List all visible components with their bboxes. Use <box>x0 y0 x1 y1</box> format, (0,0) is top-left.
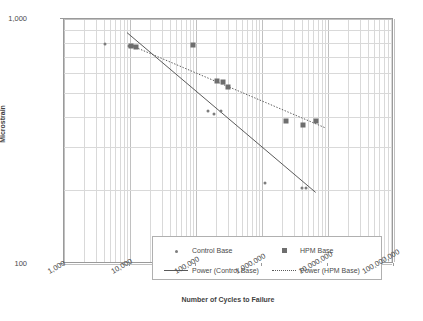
x-axis-tickmark <box>195 263 196 266</box>
gridline-vertical <box>394 19 395 262</box>
y-axis-tick-label: 1,000 <box>0 18 27 27</box>
data-point <box>220 110 223 113</box>
y-axis-tick-label: 100 <box>0 263 27 272</box>
x-axis-tickmark <box>261 263 262 266</box>
data-point <box>301 122 306 127</box>
y-axis-label: Microstrain <box>0 105 6 143</box>
x-axis-tickmark <box>393 263 394 266</box>
legend-item-hpm-base: HPM Base <box>271 247 371 254</box>
data-point <box>191 43 196 48</box>
x-axis-tickmark <box>327 263 328 266</box>
x-axis-label: Number of Cycles to Failure <box>63 296 393 303</box>
data-point <box>206 110 209 113</box>
legend-dotted-line-icon <box>271 267 297 274</box>
data-point <box>300 186 303 189</box>
data-point <box>213 112 216 115</box>
legend-square-icon <box>271 247 297 254</box>
x-axis-tickmark <box>129 263 130 266</box>
legend-dot-icon <box>163 247 189 254</box>
legend-label: Control Base <box>192 247 232 254</box>
trendlines-layer <box>64 19 394 264</box>
plot-area: Control Base HPM Base Power (Control Bas… <box>63 18 393 263</box>
data-point <box>304 186 307 189</box>
x-axis-tick-label: 1,000 <box>46 259 67 276</box>
data-point <box>313 118 318 123</box>
y-axis-tickmark <box>60 18 63 19</box>
x-axis-tickmark <box>63 263 64 266</box>
legend-item-power-hpm-base: Power (HPM Base) <box>271 267 371 274</box>
data-point <box>104 43 107 46</box>
data-point <box>283 118 288 123</box>
chart-legend: Control Base HPM Base Power (Control Bas… <box>152 236 382 280</box>
legend-item-control-base: Control Base <box>163 247 271 254</box>
data-point <box>134 44 139 49</box>
chart-container: Microstrain Number of Cycles to Failure … <box>0 0 423 321</box>
data-point <box>225 84 230 89</box>
data-point <box>263 181 266 184</box>
data-point <box>215 78 220 83</box>
